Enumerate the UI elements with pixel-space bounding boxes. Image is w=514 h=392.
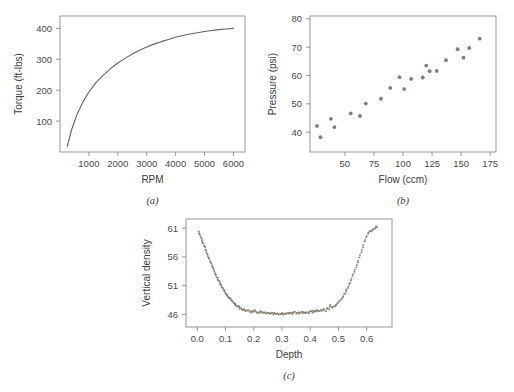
data-point-b: [462, 56, 466, 60]
x-tick-label-b-5: 175: [482, 158, 498, 169]
y-tick-label-b-0: 40: [291, 127, 302, 138]
data-point-c: [367, 232, 369, 234]
data-point-c: [339, 300, 341, 302]
plot-frame-c: [186, 219, 392, 327]
data-point-c: [350, 278, 352, 280]
data-point-c: [361, 249, 363, 251]
data-point-b: [428, 69, 432, 73]
data-point-c: [278, 314, 280, 316]
data-point-c: [360, 251, 362, 253]
data-point-c: [376, 226, 378, 228]
data-point-b: [364, 102, 368, 106]
subplot-panel-b: 50751001251501754050607080Flow (ccm)Pres…: [258, 0, 514, 205]
x-tick-label-a-2: 3000: [136, 158, 157, 169]
data-point-c: [352, 275, 354, 277]
data-point-b: [444, 58, 448, 62]
x-axis-title-b: Flow (ccm): [379, 174, 428, 185]
data-point-c: [308, 312, 310, 314]
data-point-c: [310, 310, 312, 312]
data-point-c: [222, 287, 224, 289]
data-point-b: [435, 69, 439, 73]
data-point-b: [421, 76, 425, 80]
data-point-c: [201, 238, 203, 240]
data-point-c: [362, 246, 364, 248]
data-point-b: [379, 97, 383, 101]
x-tick-label-b-1: 75: [369, 158, 380, 169]
data-point-c: [357, 260, 359, 262]
data-point-c: [345, 290, 347, 292]
x-tick-label-a-3: 4000: [165, 158, 186, 169]
y-axis-title-c: Vertical density: [141, 239, 152, 306]
subplot-a-canvas: 100020003000400050006000100200300400RPMT…: [0, 0, 258, 205]
data-point-c: [258, 312, 260, 314]
data-point-c: [347, 287, 349, 289]
x-tick-label-c-0: 0.0: [191, 333, 204, 344]
data-point-c: [359, 254, 361, 256]
figure-panel-group: 100020003000400050006000100200300400RPMT…: [0, 0, 514, 392]
data-point-b: [467, 46, 471, 50]
data-point-c: [249, 311, 251, 313]
x-axis-title-c: Depth: [276, 349, 303, 360]
data-point-c: [355, 266, 357, 268]
data-point-c: [354, 269, 356, 271]
subplot-b-canvas: 50751001251501754050607080Flow (ccm)Pres…: [258, 0, 514, 205]
y-tick-label-b-3: 70: [291, 42, 302, 53]
data-point-c: [348, 286, 350, 288]
data-point-c: [364, 239, 366, 241]
subplot-c-canvas: 0.00.10.20.30.40.50.646515661DepthVertic…: [128, 205, 418, 392]
data-point-c: [342, 295, 344, 297]
x-tick-label-a-1: 2000: [107, 158, 128, 169]
y-axis-title-a: Torque (ft-lbs): [13, 53, 24, 115]
x-tick-label-b-2: 100: [395, 158, 411, 169]
y-tick-label-c-2: 56: [167, 251, 178, 262]
data-point-c: [235, 303, 237, 305]
data-point-c: [198, 231, 200, 233]
data-point-b: [456, 47, 460, 51]
data-point-c: [328, 308, 330, 310]
data-point-b: [402, 87, 406, 91]
data-point-c: [201, 240, 203, 242]
x-tick-label-b-3: 125: [424, 158, 440, 169]
data-point-c: [238, 306, 240, 308]
data-point-b: [478, 37, 482, 41]
y-tick-label-a-0: 100: [36, 116, 52, 127]
y-tick-label-b-4: 80: [291, 13, 302, 24]
data-point-c: [207, 254, 209, 256]
x-tick-label-a-5: 6000: [223, 158, 244, 169]
data-point-b: [388, 86, 392, 90]
subplot-panel-c: 0.00.10.20.30.40.50.646515661DepthVertic…: [128, 205, 418, 392]
data-point-c: [324, 309, 326, 311]
data-point-c: [205, 249, 207, 251]
data-point-b: [333, 125, 337, 129]
data-point-c: [358, 256, 360, 258]
data-point-c: [200, 235, 202, 237]
data-point-c: [245, 310, 247, 312]
panel-caption-c: (c): [283, 370, 295, 382]
x-tick-label-c-6: 0.6: [360, 333, 373, 344]
data-point-c: [366, 235, 368, 237]
y-tick-label-c-0: 46: [167, 309, 178, 320]
data-point-c: [215, 274, 217, 276]
torque-curve: [67, 28, 233, 146]
y-tick-label-b-2: 60: [291, 70, 302, 81]
y-axis-title-b: Pressure (psi): [267, 53, 278, 115]
y-tick-label-c-3: 61: [167, 223, 178, 234]
plot-frame-b: [310, 16, 496, 152]
data-point-c: [345, 293, 347, 295]
data-point-c: [352, 273, 354, 275]
subplot-panel-a: 100020003000400050006000100200300400RPMT…: [0, 0, 258, 205]
data-point-c: [312, 312, 314, 314]
data-point-c: [217, 277, 219, 279]
data-point-b: [409, 77, 413, 81]
x-tick-label-c-5: 0.5: [332, 333, 345, 344]
x-tick-label-c-2: 0.2: [247, 333, 260, 344]
data-point-c: [357, 261, 359, 263]
x-tick-label-b-0: 50: [340, 158, 351, 169]
data-point-b: [329, 117, 333, 121]
data-point-b: [349, 112, 353, 116]
data-point-c: [294, 311, 296, 313]
y-tick-label-a-2: 300: [36, 54, 52, 65]
data-point-c: [362, 244, 364, 246]
data-point-c: [322, 310, 324, 312]
data-point-c: [348, 283, 350, 285]
